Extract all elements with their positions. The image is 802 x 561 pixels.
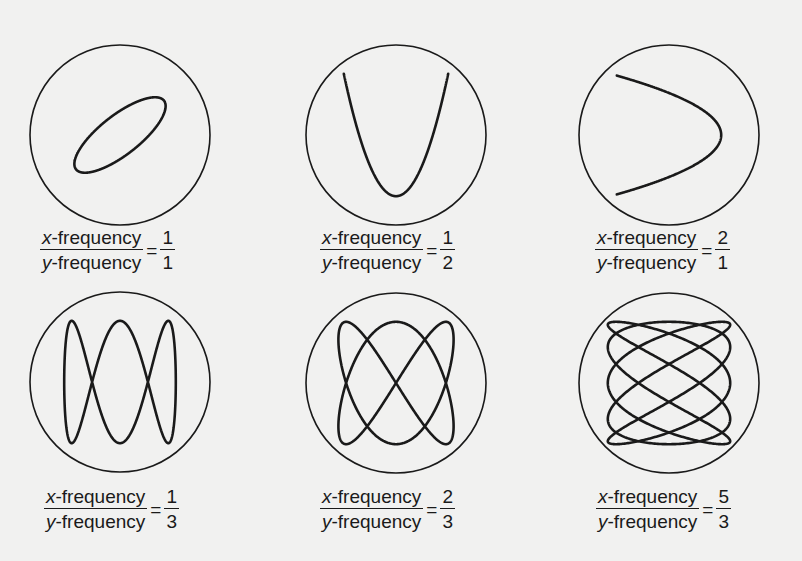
lissajous-curve xyxy=(64,321,176,443)
ratio-denominator: 3 xyxy=(164,509,179,531)
oscilloscope-circle xyxy=(30,45,210,225)
ratio-value: 5 3 xyxy=(716,487,731,531)
denominator-text: y-frequency xyxy=(44,509,147,531)
ratio-numerator: 1 xyxy=(160,228,175,250)
numerator-text: x-frequency xyxy=(320,228,423,250)
ratio-numerator: 2 xyxy=(440,487,455,509)
denominator-text: y-frequency xyxy=(596,509,699,531)
lissajous-curve xyxy=(344,74,448,196)
ratio-denominator: 3 xyxy=(440,509,455,531)
denominator-text: y-frequency xyxy=(40,250,143,272)
denominator-text: y-frequency xyxy=(320,509,423,531)
frequency-fraction: x-frequency y-frequency xyxy=(40,228,143,272)
ratio-value: 2 3 xyxy=(440,487,455,531)
frequency-fraction: x-frequency y-frequency xyxy=(320,487,423,531)
ratio-denominator: 2 xyxy=(440,250,455,272)
lissajous-panel-1-3 xyxy=(30,292,210,472)
ratio-numerator: 1 xyxy=(440,228,455,250)
frequency-fraction: x-frequency y-frequency xyxy=(320,228,423,272)
ratio-denominator: 1 xyxy=(715,250,730,272)
equals-sign: = xyxy=(702,500,713,519)
ratio-value: 1 1 xyxy=(160,228,175,272)
oscilloscope-circle xyxy=(30,292,210,472)
numerator-text: x-frequency xyxy=(320,487,423,509)
lissajous-curve xyxy=(608,322,730,444)
frequency-ratio-label: x-frequency y-frequency = 1 2 xyxy=(320,228,455,272)
ratio-value: 1 2 xyxy=(440,228,455,272)
frequency-ratio-label: x-frequency y-frequency = 1 1 xyxy=(40,228,175,272)
frequency-ratio-label: x-frequency y-frequency = 1 3 xyxy=(44,487,179,531)
lissajous-panel-1-2 xyxy=(306,45,486,225)
lissajous-panel-1-1 xyxy=(30,45,210,225)
lissajous-panel-5-3 xyxy=(579,293,759,473)
oscilloscope-circle xyxy=(306,45,486,225)
denominator-text: y-frequency xyxy=(320,250,423,272)
numerator-text: x-frequency xyxy=(40,228,143,250)
ratio-numerator: 5 xyxy=(716,487,731,509)
denominator-text: y-frequency xyxy=(595,250,698,272)
numerator-text: x-frequency xyxy=(596,487,699,509)
lissajous-panel-2-3 xyxy=(306,293,486,473)
frequency-ratio-label: x-frequency y-frequency = 2 1 xyxy=(595,228,730,272)
equals-sign: = xyxy=(701,241,712,260)
equals-sign: = xyxy=(426,500,437,519)
equals-sign: = xyxy=(426,241,437,260)
ratio-numerator: 2 xyxy=(715,228,730,250)
lissajous-panel-2-1 xyxy=(579,45,759,225)
oscilloscope-circle xyxy=(579,45,759,225)
frequency-fraction: x-frequency y-frequency xyxy=(596,487,699,531)
numerator-text: x-frequency xyxy=(595,228,698,250)
frequency-fraction: x-frequency y-frequency xyxy=(595,228,698,272)
frequency-ratio-label: x-frequency y-frequency = 2 3 xyxy=(320,487,455,531)
frequency-ratio-label: x-frequency y-frequency = 5 3 xyxy=(596,487,731,531)
oscilloscope-circle xyxy=(579,293,759,473)
numerator-text: x-frequency xyxy=(44,487,147,509)
ratio-value: 1 3 xyxy=(164,487,179,531)
ratio-value: 2 1 xyxy=(715,228,730,272)
lissajous-figure xyxy=(0,0,802,561)
lissajous-curve xyxy=(74,97,165,172)
ratio-denominator: 1 xyxy=(160,250,175,272)
frequency-fraction: x-frequency y-frequency xyxy=(44,487,147,531)
lissajous-curve xyxy=(338,322,453,444)
ratio-numerator: 1 xyxy=(164,487,179,509)
lissajous-curve xyxy=(617,76,721,195)
equals-sign: = xyxy=(146,241,157,260)
equals-sign: = xyxy=(150,500,161,519)
ratio-denominator: 3 xyxy=(716,509,731,531)
